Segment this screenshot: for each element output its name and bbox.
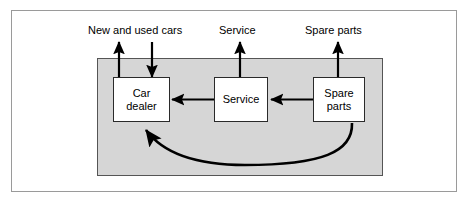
diagram-canvas: New and used cars Service Spare parts Ca… [0,0,470,203]
node-spare-parts: Spare parts [313,77,365,122]
node-car-dealer: Car dealer [113,77,170,122]
node-spare-parts-label: Spare parts [322,87,355,113]
output-label-new-and-used-cars: New and used cars [88,24,182,37]
output-label-service: Service [219,24,256,37]
node-car-dealer-label: Car dealer [124,87,159,113]
node-service: Service [214,77,268,122]
output-label-spare-parts: Spare parts [305,24,362,37]
node-service-label: Service [221,93,262,106]
